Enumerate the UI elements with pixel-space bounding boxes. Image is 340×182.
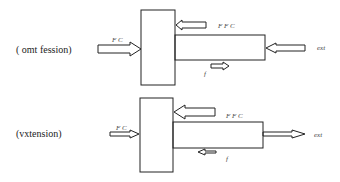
rod-end-label: ext [317, 44, 325, 52]
left-force-label: F C [112, 36, 123, 44]
friction-label: f [226, 155, 228, 163]
rod-end-label: ext [314, 131, 322, 139]
diagram-canvas [0, 0, 340, 182]
top-force-labels: F F C [226, 112, 243, 120]
left-force-label: F C [116, 124, 127, 132]
rod-compression [175, 35, 265, 60]
compression-label: ( omt fession) [16, 44, 72, 55]
arrow-left-icon [266, 43, 305, 53]
block-extension [140, 98, 173, 172]
arrow-left-icon [176, 20, 206, 30]
block-compression [141, 10, 175, 85]
top-force-labels: F F C [218, 22, 235, 30]
arrow-left-icon [198, 149, 216, 155]
rod-extension [173, 122, 263, 148]
arrow-right-icon [98, 42, 141, 56]
arrow-right-icon [263, 130, 305, 138]
arrow-left-icon [174, 105, 215, 119]
friction-label: f [204, 70, 206, 78]
arrow-right-icon [211, 62, 229, 70]
extension-label: (vxtension) [16, 128, 62, 139]
